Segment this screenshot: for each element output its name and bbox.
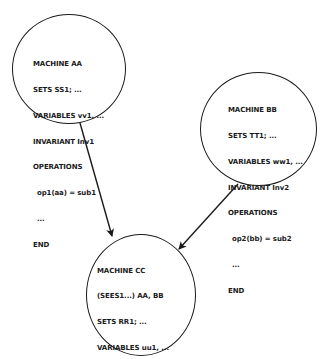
machine-aa-line: op1(aa) = sub1 xyxy=(33,189,104,198)
machine-aa-line: MACHINE AA xyxy=(33,60,104,69)
machine-bb-line: MACHINE BB xyxy=(228,106,303,115)
machine-bb-line: ... xyxy=(228,261,303,270)
machine-aa-line: OPERATIONS xyxy=(33,163,104,172)
machine-aa-line: VARIABLES vv1, ... xyxy=(33,112,104,121)
machine-aa-text: MACHINE AA SETS SS1; ... VARIABLES vv1, … xyxy=(33,43,104,258)
machine-cc-line: VARIABLES uu1, ... xyxy=(97,344,169,353)
machine-bb-line: END xyxy=(228,287,303,296)
machine-cc-text: MACHINE CC (SEES1...) AA, BB SETS RR1; .… xyxy=(97,251,169,359)
machine-bb-line: VARIABLES ww1, ... xyxy=(228,158,303,167)
machine-bb-line: op2(bb) = sub2 xyxy=(228,235,303,244)
machine-bb-line: INVARIANT Inv2 xyxy=(228,184,303,193)
machine-cc-line: (SEES1...) AA, BB xyxy=(97,292,169,301)
machine-aa-line: SETS SS1; ... xyxy=(33,86,104,95)
machine-bb-line: OPERATIONS xyxy=(228,209,303,218)
machine-aa-line: END xyxy=(33,241,104,250)
machine-aa-line: ... xyxy=(33,215,104,224)
machine-aa-line: INVARIANT Inv1 xyxy=(33,138,104,147)
machine-bb-text: MACHINE BB SETS TT1; ... VARIABLES ww1, … xyxy=(228,89,303,304)
machine-cc-line: SETS RR1; ... xyxy=(97,318,169,327)
machine-cc-line: MACHINE CC xyxy=(97,268,169,275)
machine-bb-line: SETS TT1; ... xyxy=(228,132,303,141)
